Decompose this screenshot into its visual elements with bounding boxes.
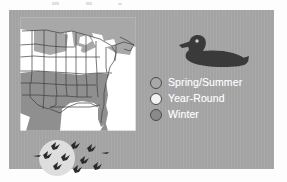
legend-item-year-round[interactable]: Year-Round bbox=[150, 91, 268, 107]
legend-item-winter[interactable]: Winter bbox=[150, 107, 268, 123]
duck-eye bbox=[195, 39, 198, 42]
legend-item-spring-summer[interactable]: Spring/Summer bbox=[150, 75, 268, 91]
legend-label-spring-summer: Spring/Summer bbox=[168, 77, 242, 88]
legend-label-year-round: Year-Round bbox=[168, 93, 225, 104]
legend-label-winter: Winter bbox=[168, 109, 199, 120]
scan-artifact bbox=[118, 3, 122, 5]
migrating-birds-over-moon bbox=[31, 136, 119, 180]
figure-panel: Spring/Summer Year-Round Winter bbox=[9, 10, 274, 169]
legend: Spring/Summer Year-Round Winter bbox=[150, 75, 268, 123]
legend-swatch-spring-summer bbox=[150, 77, 162, 89]
range-map bbox=[20, 17, 136, 131]
moon bbox=[39, 140, 75, 176]
duck-silhouette bbox=[177, 32, 249, 74]
scan-artifact bbox=[52, 2, 59, 5]
legend-swatch-winter bbox=[150, 109, 162, 121]
legend-swatch-year-round bbox=[150, 93, 162, 105]
range-map-figure: Spring/Summer Year-Round Winter bbox=[0, 0, 287, 182]
scan-artifact bbox=[86, 2, 92, 5]
